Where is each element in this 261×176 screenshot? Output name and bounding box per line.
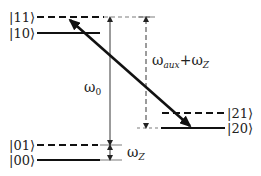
label-01: |01⟩ xyxy=(9,138,35,153)
omega-z-label: ωZ xyxy=(127,144,145,162)
label-21: |21⟩ xyxy=(227,106,253,121)
label-11: |11⟩ xyxy=(9,10,35,25)
label-00: |00⟩ xyxy=(9,153,35,168)
label-20: |20⟩ xyxy=(227,121,253,136)
diagram-svg: |11⟩ |10⟩ |01⟩ |00⟩ |21⟩ |20⟩ ω0 ωaux+ωZ… xyxy=(0,0,261,176)
label-10: |10⟩ xyxy=(9,26,35,41)
transition-arrow xyxy=(70,20,190,126)
omega0-label: ω0 xyxy=(84,79,101,97)
energy-level-diagram: |11⟩ |10⟩ |01⟩ |00⟩ |21⟩ |20⟩ ω0 ωaux+ωZ… xyxy=(0,0,261,176)
omega-aux-z-label: ωaux+ωZ xyxy=(152,52,210,70)
